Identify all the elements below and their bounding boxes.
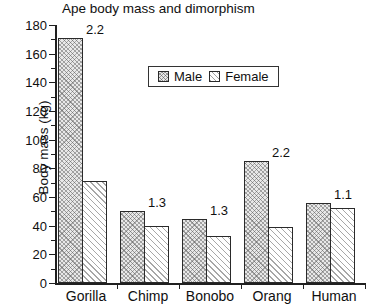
y-axis-tick-label: 60: [33, 190, 47, 205]
bar-male: [120, 211, 145, 283]
bar-chart: Ape body mass and dimorphism Body mass (…: [0, 0, 375, 308]
plot-area: [55, 25, 365, 283]
y-axis-tick-label: 160: [25, 46, 47, 61]
bar-male: [306, 203, 331, 283]
x-axis-line: [55, 283, 366, 285]
legend-entry: Male: [158, 69, 202, 84]
hatched-diagonal-swatch: [209, 71, 220, 82]
y-axis-tick-label: 180: [25, 18, 47, 33]
bar-group: [182, 25, 232, 283]
y-axis-tick-label: 120: [25, 104, 47, 119]
x-axis-category-label: Chimp: [128, 288, 168, 304]
x-axis-tick: [303, 283, 304, 289]
y-axis-tick-label: 0: [40, 276, 47, 291]
x-axis-category-label: Gorilla: [66, 288, 106, 304]
bar-male: [244, 161, 269, 283]
x-axis-tick: [241, 283, 242, 289]
y-axis-tick-label: 40: [33, 218, 47, 233]
bar-female: [268, 227, 293, 283]
y-axis-major-tick: [49, 283, 55, 284]
legend-entry: Female: [209, 69, 268, 84]
dimorphism-ratio-label: 2.2: [86, 22, 104, 37]
bar-group: [120, 25, 170, 283]
y-axis-tick-label: 80: [33, 161, 47, 176]
legend-label: Female: [225, 69, 268, 84]
x-axis-category-label: Human: [311, 288, 356, 304]
x-axis-tick: [179, 283, 180, 289]
dimorphism-ratio-label: 1.3: [148, 195, 166, 210]
y-axis-tick-label: 100: [25, 132, 47, 147]
x-axis-tick: [365, 283, 366, 289]
x-axis-tick: [117, 283, 118, 289]
hatched-crosshatch-swatch: [158, 71, 169, 82]
bar-female: [82, 181, 107, 283]
bar-female: [330, 208, 355, 283]
dimorphism-ratio-label: 2.2: [272, 145, 290, 160]
chart-title: Ape body mass and dimorphism: [62, 1, 362, 16]
bar-group: [58, 25, 108, 283]
x-axis-category-label: Bonobo: [186, 288, 234, 304]
bar-female: [206, 236, 231, 283]
bar-female: [144, 226, 169, 283]
y-axis-tick-label: 140: [25, 75, 47, 90]
legend-label: Male: [174, 69, 202, 84]
bar-group: [306, 25, 356, 283]
bar-male: [58, 38, 83, 283]
legend: MaleFemale: [148, 66, 279, 87]
dimorphism-ratio-label: 1.3: [210, 203, 228, 218]
bar-male: [182, 219, 207, 284]
x-axis-category-label: Orang: [253, 288, 292, 304]
dimorphism-ratio-label: 1.1: [334, 187, 352, 202]
y-axis-tick-label: 20: [33, 247, 47, 262]
